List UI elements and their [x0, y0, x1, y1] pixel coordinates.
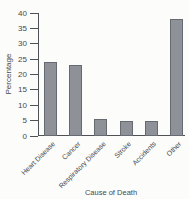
y-tick-label: 15 — [5, 85, 27, 94]
bar-other — [170, 19, 183, 136]
x-category-label: Other — [165, 140, 183, 158]
bar-chart: Percentage 0510152025303540 Heart Diseas… — [0, 0, 189, 199]
y-tick-mark — [30, 43, 38, 44]
x-category-label: Heart Disease — [20, 140, 57, 177]
plot-area: 0510152025303540 Heart DiseaseCancerResp… — [38, 13, 185, 136]
bar-accidents — [145, 121, 158, 136]
y-tick-label: 10 — [5, 101, 27, 110]
y-tick-mark — [30, 89, 38, 90]
y-tick-mark — [30, 136, 38, 137]
x-category-label: Stroke — [113, 140, 133, 160]
x-category-label: Respiratory Disease — [57, 140, 107, 190]
y-axis-line — [38, 13, 39, 136]
bar-stroke — [120, 121, 133, 136]
y-tick-mark — [30, 13, 38, 14]
x-category-label: Accidents — [131, 140, 158, 167]
y-tick-label: 5 — [5, 116, 27, 125]
y-tick-label: 35 — [5, 24, 27, 33]
y-tick-label: 0 — [5, 132, 27, 141]
x-axis-title: Cause of Death — [85, 188, 137, 197]
y-tick-label: 40 — [5, 9, 27, 18]
x-category-label: Cancer — [61, 140, 83, 162]
x-axis-line — [38, 135, 185, 136]
y-tick-label: 25 — [5, 55, 27, 64]
y-tick-mark — [30, 120, 38, 121]
y-tick-label: 30 — [5, 39, 27, 48]
y-tick-mark — [30, 28, 38, 29]
y-tick-mark — [30, 59, 38, 60]
bar-heart-disease — [44, 62, 57, 136]
y-tick-mark — [30, 74, 38, 75]
bar-cancer — [69, 65, 82, 136]
y-tick-label: 20 — [5, 70, 27, 79]
bar-respiratory-disease — [94, 119, 107, 136]
y-tick-mark — [30, 105, 38, 106]
